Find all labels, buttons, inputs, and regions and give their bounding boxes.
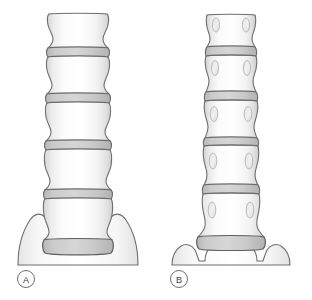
- vertebra-body-L1: [47, 13, 108, 49]
- vertebra-body-L2: [46, 56, 109, 96]
- disc-L4-L5: [202, 184, 259, 194]
- disc-L5-S1: [43, 239, 114, 255]
- spine-illustration: A: [0, 0, 312, 300]
- disc-L3-L4: [45, 140, 112, 150]
- pedicle-oval-L3-left: [210, 107, 218, 122]
- pedicle-oval-L3-right: [244, 107, 252, 122]
- vertebra-body-L3: [45, 102, 110, 143]
- vertebra-body-L5: [198, 193, 264, 238]
- panel-label-a-text: A: [23, 275, 29, 285]
- disc-L2-L3: [204, 91, 257, 101]
- disc-L1-L2: [47, 47, 110, 57]
- disc-L5-S1: [197, 236, 266, 251]
- pedicle-oval-L5-left: [208, 202, 216, 218]
- pedicle-oval-L4-right: [245, 153, 253, 169]
- pedicle-oval-L2-left: [211, 61, 218, 76]
- pedicle-oval-L5-right: [246, 202, 254, 218]
- vertebra-body-L4: [44, 149, 111, 192]
- panel-label-b-text: B: [176, 275, 182, 285]
- panel-label-b: B: [171, 271, 188, 288]
- pedicle-oval-L1-left: [212, 18, 219, 32]
- panel-label-a: A: [18, 271, 35, 288]
- vertebra-body-L5: [43, 197, 112, 242]
- pedicle-oval-L2-right: [243, 61, 250, 76]
- disc-L4-L5: [44, 189, 113, 199]
- disc-L3-L4: [203, 137, 258, 146]
- pedicle-oval-L1-right: [242, 18, 249, 32]
- pedicle-oval-L4-left: [209, 153, 217, 169]
- disc-L1-L2: [205, 46, 256, 56]
- disc-L2-L3: [46, 93, 111, 103]
- figure-root: A: [0, 0, 312, 300]
